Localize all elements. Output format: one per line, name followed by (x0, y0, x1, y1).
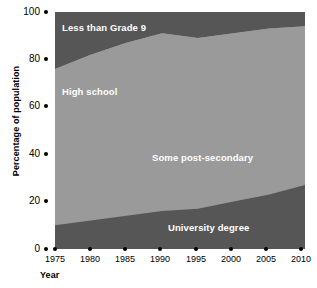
plot-area (55, 12, 305, 249)
y-tick-dot-60 (44, 104, 48, 108)
x-tick-dot-2005 (264, 247, 268, 251)
x-tick-dot-1990 (158, 247, 162, 251)
series-label-university-degree: University degree (168, 222, 249, 233)
y-axis-title: Percentage of population (11, 51, 21, 191)
y-tick-label-40: 40 (14, 148, 40, 159)
x-tick-label-2010: 2010 (284, 254, 317, 264)
x-tick-label-1980: 1980 (73, 254, 107, 264)
x-tick-dot-1985 (123, 247, 127, 251)
y-tick-dot-40 (44, 152, 48, 156)
series-label-less-than-grade-9: Less than Grade 9 (62, 22, 146, 33)
x-tick-label-1985: 1985 (108, 254, 142, 264)
x-tick-label-2000: 2000 (214, 254, 248, 264)
x-tick-label-2005: 2005 (249, 254, 283, 264)
y-tick-label-60: 60 (14, 100, 40, 111)
x-tick-label-1995: 1995 (179, 254, 213, 264)
y-tick-label-80: 80 (14, 53, 40, 64)
x-tick-label-1975: 1975 (38, 254, 72, 264)
y-tick-dot-0 (44, 247, 48, 251)
y-tick-label-20: 20 (14, 195, 40, 206)
y-tick-dot-100 (44, 10, 48, 14)
series-label-some-post-secondary: Some post-secondary (152, 152, 253, 163)
stacked-area-chart: Percentage of population Year 100 80 60 … (0, 0, 317, 288)
x-tick-dot-1980 (88, 247, 92, 251)
x-tick-dot-1995 (194, 247, 198, 251)
x-tick-dot-2000 (229, 247, 233, 251)
y-tick-label-100: 100 (14, 6, 40, 17)
series-label-high-school: High school (62, 86, 117, 97)
y-tick-dot-80 (44, 57, 48, 61)
y-tick-label-0: 0 (14, 243, 40, 254)
x-tick-dot-2010 (299, 247, 303, 251)
x-tick-dot-1975 (53, 247, 57, 251)
y-tick-dot-20 (44, 199, 48, 203)
x-tick-label-1990: 1990 (143, 254, 177, 264)
x-axis-title: Year (40, 270, 59, 280)
